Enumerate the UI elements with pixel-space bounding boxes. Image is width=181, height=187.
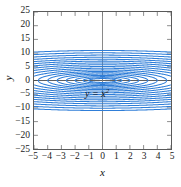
annotation-exponent: 2 — [106, 87, 110, 95]
y-tick-label: 0 — [25, 76, 30, 86]
x-axis-tick-labels: −5−4−3−2−1012345 — [33, 152, 172, 165]
y-tick-label: −10 — [15, 104, 30, 114]
plot-area: y = x2 — [33, 11, 172, 150]
x-tick-label: −4 — [42, 152, 52, 162]
y-tick-label: −15 — [15, 117, 30, 127]
x-tick-label: 2 — [128, 152, 133, 162]
x-tick-label: 0 — [100, 152, 105, 162]
x-tick-label: 1 — [114, 152, 119, 162]
y-axis-title: y — [2, 66, 14, 90]
y-tick-label: 15 — [21, 34, 31, 44]
curve-annotation-y-equals-x-squared: y = x2 — [85, 89, 109, 99]
x-tick-label: 4 — [156, 152, 161, 162]
x-axis-title: x — [33, 166, 172, 178]
y-tick-label: 25 — [21, 6, 31, 16]
y-tick-label: −5 — [20, 90, 30, 100]
x-tick-label: −1 — [84, 152, 94, 162]
x-tick-label: 3 — [142, 152, 147, 162]
annotation-text: y = x — [85, 88, 106, 99]
y-tick-label: −20 — [15, 131, 30, 141]
figure-canvas: 2520151050−5−10−15−20−25 y = x2 −5−4−3−2… — [0, 0, 181, 187]
y-tick-label: 20 — [21, 20, 31, 30]
x-tick-label: −5 — [28, 152, 38, 162]
y-tick-label: 5 — [25, 62, 30, 72]
x-tick-label: −2 — [70, 152, 80, 162]
y-tick-label: 10 — [21, 48, 31, 58]
x-tick-label: −3 — [56, 152, 66, 162]
x-tick-label: 5 — [170, 152, 175, 162]
curve-family — [34, 12, 171, 149]
